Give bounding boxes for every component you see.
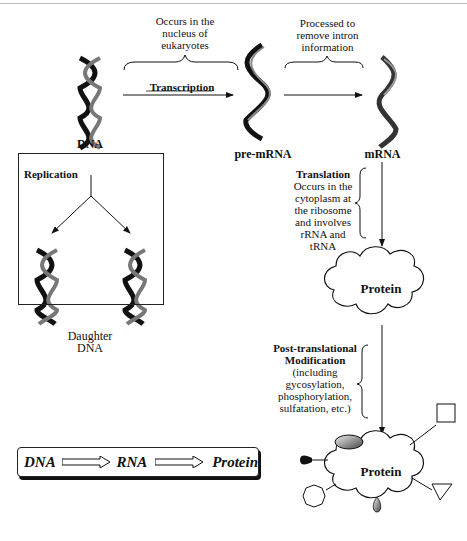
translation-note: Translation Occurs in the cytoplasm at t… <box>288 168 358 252</box>
square-modification-icon <box>437 404 455 422</box>
mrna-label: mRNA <box>355 148 410 160</box>
ptm-note: Post-translational Modification (includi… <box>270 342 360 414</box>
double-arrow-icon <box>155 456 204 468</box>
octagon-modification-icon <box>303 485 325 507</box>
flow-dna: DNA <box>24 454 56 471</box>
replication-label: Replication <box>24 168 84 180</box>
double-arrow-icon <box>62 456 111 468</box>
transcription-label: Transcription <box>142 81 222 93</box>
daughter-dna-label: Daughter DNA <box>55 330 125 354</box>
teardrop-modification-icon <box>300 456 312 465</box>
pre-mrna-strand-icon <box>246 45 270 139</box>
modified-protein-label: Protein <box>346 466 416 478</box>
triangle-modification-icon <box>432 484 452 500</box>
nucleus-brace <box>124 55 238 70</box>
processing-brace <box>285 56 363 68</box>
mrna-strand-icon <box>379 57 396 147</box>
oval-modification-icon <box>335 435 363 449</box>
flow-protein: Protein <box>212 454 258 471</box>
central-dogma-summary: DNA RNA Protein <box>17 447 259 477</box>
nucleus-note: Occurs in the nucleus of eukaryotes <box>130 15 240 51</box>
dna-helix-icon <box>80 58 100 148</box>
protein-label: Protein <box>346 283 416 295</box>
pre-mrna-label: pre-mRNA <box>223 148 303 160</box>
flow-rna: RNA <box>116 454 147 471</box>
drop-modification-icon <box>373 497 381 512</box>
dna-label: DNA <box>70 138 110 150</box>
processing-note: Processed to remove intron information <box>290 17 365 53</box>
